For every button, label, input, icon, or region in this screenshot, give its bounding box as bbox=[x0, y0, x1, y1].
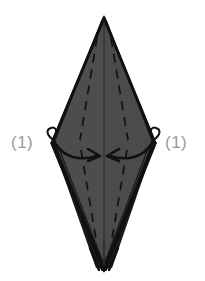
step-label-left: (1) bbox=[11, 134, 33, 151]
origami-diagram: (1) (1) bbox=[0, 0, 205, 281]
step-label-right: (1) bbox=[165, 134, 187, 151]
paper-shade-right bbox=[104, 18, 155, 270]
